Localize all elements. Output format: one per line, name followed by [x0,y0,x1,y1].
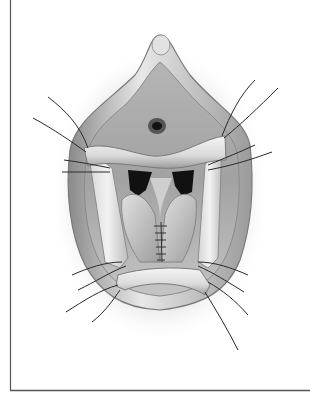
illustration-frame [0,0,310,394]
surgical-illustration [0,0,310,394]
apex-knob [152,35,170,55]
